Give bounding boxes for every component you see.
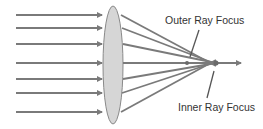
outer-ray-focus-label: Outer Ray Focus (165, 15, 244, 26)
inner-focus-point (214, 61, 219, 66)
spherical-aberration-diagram: Outer Ray Focus Inner Ray Focus (0, 0, 263, 129)
refracted-rays (121, 15, 241, 112)
inner-ray-focus-label: Inner Ray Focus (178, 102, 255, 113)
outer-focus-pointer (190, 30, 199, 57)
incoming-rays (16, 15, 102, 112)
convex-lens (103, 6, 123, 124)
inner-focus-pointer (207, 71, 214, 98)
outer-focus-point (185, 61, 189, 65)
